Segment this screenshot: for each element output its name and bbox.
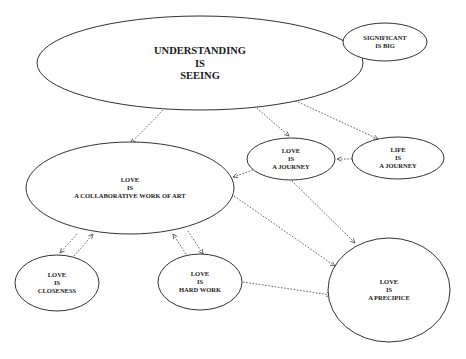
edge-line — [60, 234, 77, 253]
edge-line — [252, 104, 289, 136]
edge-line — [173, 234, 186, 254]
edge-line — [234, 196, 335, 266]
edge-line — [74, 234, 93, 256]
node-label-line: SEEING — [180, 70, 220, 81]
edge-line — [131, 110, 163, 143]
node-label-line: IS — [195, 58, 205, 69]
node-label-line: IS — [127, 184, 134, 191]
node-love-precipice: LOVEISA PRECIPICE — [328, 238, 450, 342]
node-label-line: LOVE — [121, 176, 139, 183]
node-label-line: IS — [197, 278, 204, 285]
node-love-hardwork: LOVEISHARD WORK — [158, 254, 242, 310]
edge-love-hardwork-to-love-precipice — [243, 282, 331, 296]
edge-understanding-to-love-art — [131, 110, 163, 143]
edge-love-art-to-love-precipice — [234, 196, 335, 266]
node-label-line: IS — [288, 155, 295, 162]
node-label-line: LOVE — [282, 147, 300, 154]
node-love-journey: LOVEISA JOURNEY — [247, 138, 335, 180]
node-label-line: HARD WORK — [179, 286, 221, 293]
node-label-line: UNDERSTANDING — [154, 45, 246, 56]
node-label-line: IS — [386, 286, 393, 293]
node-significant: SIGNIFICANTIS BIG — [343, 23, 427, 61]
edge-love-art-to-love-hardwork — [188, 231, 203, 254]
node-label-line: A PRECIPICE — [368, 294, 410, 301]
edge-love-hardwork-to-love-art — [173, 234, 186, 254]
node-label-line: A COLLABORATIVE WORK OF ART — [74, 192, 186, 199]
edge-love-closeness-to-love-art — [74, 234, 93, 256]
arrowhead-icon — [350, 238, 355, 243]
node-label-line: LOVE — [191, 270, 209, 277]
node-label-line: A JOURNEY — [379, 162, 417, 169]
node-label-line: LIFE — [390, 146, 405, 153]
node-label-line: IS — [54, 279, 61, 286]
node-label-line: LOVE — [48, 271, 66, 278]
node-love-closeness: LOVEISCLOSENESS — [15, 255, 99, 311]
node-life-journey: LIFEISA JOURNEY — [352, 137, 444, 179]
metaphor-diagram: UNDERSTANDINGISSEEINGSIGNIFICANTIS BIGLO… — [0, 0, 466, 359]
node-understanding: UNDERSTANDINGISSEEING — [37, 16, 363, 110]
node-label-line: IS — [395, 154, 402, 161]
node-love-art: LOVEISA COLLABORATIVE WORK OF ART — [26, 142, 234, 234]
edge-love-journey-to-love-precipice — [292, 181, 355, 243]
edge-understanding-to-love-journey — [252, 104, 289, 136]
edge-love-art-to-love-closeness — [60, 234, 77, 253]
node-label-line: CLOSENESS — [38, 287, 77, 294]
nodes-layer: UNDERSTANDINGISSEEINGSIGNIFICANTIS BIGLO… — [15, 16, 450, 342]
edge-line — [292, 181, 355, 243]
edge-line — [243, 282, 331, 295]
edge-line — [188, 231, 203, 254]
node-label-line: A JOURNEY — [272, 163, 310, 170]
arrowhead-icon — [199, 249, 203, 254]
node-label-line: SIGNIFICANT — [363, 34, 407, 41]
node-label-line: IS BIG — [375, 42, 395, 49]
edge-love-journey-to-love-art — [233, 170, 253, 178]
edge-life-journey-to-love-journey — [337, 157, 352, 161]
node-label-line: LOVE — [380, 278, 398, 285]
